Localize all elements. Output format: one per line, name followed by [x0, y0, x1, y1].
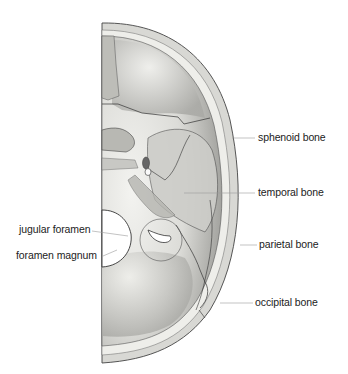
foramen-ovale [143, 157, 150, 169]
label-jugular-foramen: jugular foramen [19, 223, 90, 235]
label-temporal-bone: temporal bone [258, 186, 324, 198]
label-sphenoid-bone: sphenoid bone [258, 131, 326, 143]
label-occipital-bone: occipital bone [255, 296, 318, 308]
label-parietal-bone: parietal bone [259, 238, 318, 250]
label-foramen-magnum: foramen magnum [16, 249, 97, 261]
